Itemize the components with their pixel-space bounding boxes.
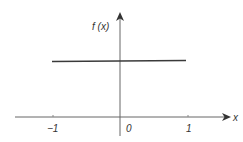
x-axis-label: x	[232, 112, 239, 123]
function-line	[52, 61, 186, 62]
y-axis-label: f (x)	[92, 21, 109, 32]
chart: f (x) x −1 0 1	[0, 0, 243, 142]
tick-label-neg1: −1	[47, 123, 58, 134]
tick-label-0: 0	[126, 123, 132, 134]
tick-label-1: 1	[186, 123, 192, 134]
